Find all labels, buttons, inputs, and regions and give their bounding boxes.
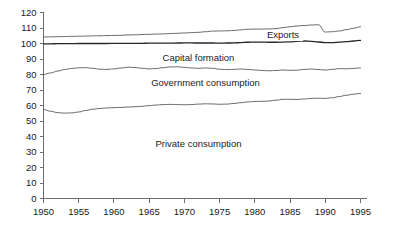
line-chart: 0102030405060708090100110120 19501955196… xyxy=(0,0,402,237)
x-tick-label: 1975 xyxy=(209,206,230,217)
series-lines xyxy=(44,25,361,113)
y-tick-label: 100 xyxy=(21,38,37,49)
series-annotation-label: Capital formation xyxy=(163,52,235,63)
x-tick-label: 1995 xyxy=(350,206,371,217)
y-axis: 0102030405060708090100110120 xyxy=(21,7,44,204)
series-line xyxy=(44,67,361,75)
y-tick-label: 40 xyxy=(26,131,37,142)
series-line xyxy=(44,25,361,37)
x-axis: 1950195519601965197019751980198519901995 xyxy=(33,199,371,217)
series-line xyxy=(44,93,361,113)
y-tick-label: 120 xyxy=(21,7,37,18)
x-tick-label: 1965 xyxy=(139,206,160,217)
x-tick-label: 1950 xyxy=(33,206,54,217)
y-tick-label: 10 xyxy=(26,177,37,188)
x-tick-label: 1980 xyxy=(244,206,265,217)
x-tick-label: 1970 xyxy=(174,206,195,217)
y-tick-label: 20 xyxy=(26,162,37,173)
y-tick-label: 110 xyxy=(21,22,36,33)
x-tick-label: 1990 xyxy=(315,206,336,217)
x-tick-label: 1985 xyxy=(279,206,300,217)
y-tick-label: 70 xyxy=(26,84,37,95)
series-annotation-label: Government consumption xyxy=(151,77,260,88)
x-tick-label: 1955 xyxy=(68,206,89,217)
y-tick-label: 90 xyxy=(26,53,37,64)
series-line xyxy=(44,40,361,43)
y-tick-label: 60 xyxy=(26,100,37,111)
y-tick-label: 30 xyxy=(26,146,37,157)
series-annotation-label: Private consumption xyxy=(155,138,241,149)
y-tick-label: 50 xyxy=(26,115,37,126)
chart-container: 0102030405060708090100110120 19501955196… xyxy=(0,0,402,237)
y-tick-label: 80 xyxy=(26,69,37,80)
x-tick-label: 1960 xyxy=(103,206,124,217)
y-tick-label: 0 xyxy=(31,193,36,204)
series-annotation-label: Exports xyxy=(267,29,299,40)
series-annotations: ExportsCapital formationGovernment consu… xyxy=(149,29,304,150)
